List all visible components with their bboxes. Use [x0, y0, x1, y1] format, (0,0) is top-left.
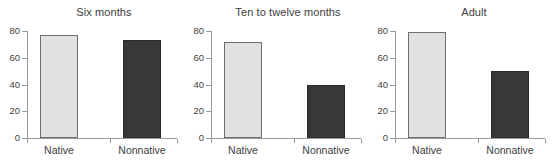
- y-axis-tick-label-text: 40: [368, 80, 388, 90]
- x-axis-tick: [395, 139, 396, 143]
- x-axis-tick: [177, 139, 178, 143]
- y-axis-tick-label-text: 60: [368, 53, 388, 63]
- y-axis-line: [395, 31, 396, 139]
- y-axis-tick-label: 20: [0, 106, 20, 116]
- y-axis-tick-label-text: 0: [184, 133, 204, 143]
- y-axis-tick: [390, 111, 395, 112]
- y-axis-tick-label: 80: [368, 26, 388, 36]
- y-axis-tick-label: 0: [0, 133, 20, 143]
- y-axis-tick-label: 40: [184, 80, 204, 90]
- y-axis-tick-label: 60: [184, 53, 204, 63]
- y-axis-tick-label-text: 20: [368, 106, 388, 116]
- y-axis-tick: [22, 58, 27, 59]
- x-axis-line: [211, 138, 361, 139]
- y-axis-tick: [390, 58, 395, 59]
- bar-chart-figure: Six months 020406080 NativeNonnative Ten…: [0, 0, 552, 165]
- bar-native: [408, 32, 446, 138]
- y-axis-tick-label-text: 40: [184, 80, 204, 90]
- x-axis-label: Native: [14, 145, 104, 156]
- y-axis-tick-label-text: 80: [184, 26, 204, 36]
- x-axis-line: [395, 138, 545, 139]
- y-axis-tick-label: 0: [184, 133, 204, 143]
- x-axis-label: Native: [198, 145, 288, 156]
- x-axis-label: Nonnative: [281, 145, 371, 156]
- y-axis-tick-label-text: 60: [184, 53, 204, 63]
- y-axis-tick-label: 40: [0, 80, 20, 90]
- bar-native: [224, 42, 262, 138]
- y-axis-tick: [390, 85, 395, 86]
- y-axis-tick-label: 0: [368, 133, 388, 143]
- y-axis-tick: [22, 85, 27, 86]
- bar-nonnative: [123, 40, 161, 138]
- y-axis-tick: [206, 31, 211, 32]
- x-axis-tick: [27, 139, 28, 143]
- bar-nonnative: [307, 85, 345, 139]
- y-axis-tick: [22, 111, 27, 112]
- x-axis-tick: [211, 139, 212, 143]
- y-axis-tick: [22, 31, 27, 32]
- y-axis-tick-label: 60: [368, 53, 388, 63]
- x-axis-tick: [361, 139, 362, 143]
- chart-panel-ten-to-twelve-months: Ten to twelve months 020406080 NativeNon…: [184, 0, 368, 165]
- x-axis-line: [27, 138, 177, 139]
- y-axis-tick-label-text: 60: [0, 53, 20, 63]
- y-axis-tick-label-text: 0: [368, 133, 388, 143]
- y-axis-tick-label: 80: [184, 26, 204, 36]
- y-axis-tick: [390, 31, 395, 32]
- plot-area: 020406080 NativeNonnative: [368, 0, 552, 165]
- x-axis-tick: [478, 139, 479, 143]
- y-axis-tick-label: 40: [368, 80, 388, 90]
- y-axis-tick-label-text: 80: [368, 26, 388, 36]
- y-axis-tick: [206, 85, 211, 86]
- x-axis-tick: [545, 139, 546, 143]
- chart-panel-adult: Adult 020406080 NativeNonnative: [368, 0, 552, 165]
- plot-area: 020406080 NativeNonnative: [0, 0, 184, 165]
- y-axis-line: [27, 31, 28, 139]
- y-axis-tick-label-text: 80: [0, 26, 20, 36]
- plot-area: 020406080 NativeNonnative: [184, 0, 368, 165]
- x-axis-tick: [110, 139, 111, 143]
- x-axis-label: Nonnative: [465, 145, 552, 156]
- chart-panel-six-months: Six months 020406080 NativeNonnative: [0, 0, 184, 165]
- y-axis-line: [211, 31, 212, 139]
- y-axis-tick-label: 80: [0, 26, 20, 36]
- x-axis-label: Nonnative: [97, 145, 187, 156]
- y-axis-tick: [206, 58, 211, 59]
- y-axis-tick-label: 60: [0, 53, 20, 63]
- x-axis-tick: [294, 139, 295, 143]
- y-axis-tick-label-text: 20: [0, 106, 20, 116]
- bar-nonnative: [491, 71, 529, 138]
- y-axis-tick-label-text: 0: [0, 133, 20, 143]
- x-axis-label: Native: [382, 145, 472, 156]
- y-axis-tick-label: 20: [368, 106, 388, 116]
- y-axis-tick-label-text: 40: [0, 80, 20, 90]
- y-axis-tick-label: 20: [184, 106, 204, 116]
- y-axis-tick-label-text: 20: [184, 106, 204, 116]
- y-axis-tick: [206, 111, 211, 112]
- bar-native: [40, 35, 78, 138]
